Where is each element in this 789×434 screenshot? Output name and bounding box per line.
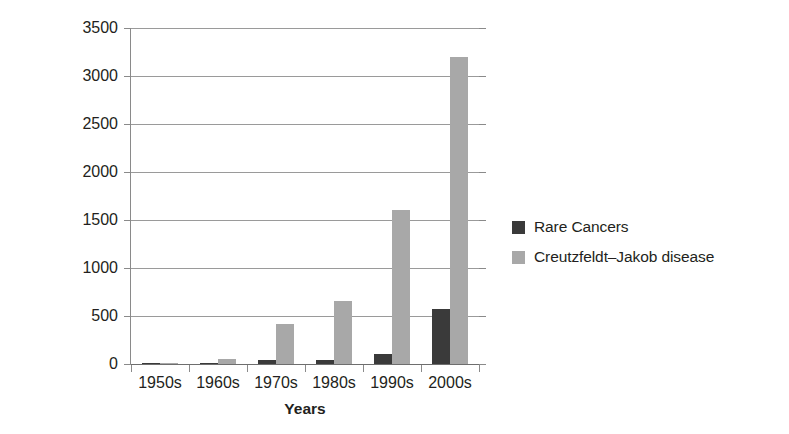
x-axis-tick	[305, 365, 306, 372]
y-axis-tick-label: 0	[48, 356, 118, 372]
y-axis-tick	[124, 124, 131, 125]
bar-group	[432, 28, 468, 364]
bar-cjd	[334, 301, 352, 364]
y-axis-tick	[124, 28, 131, 29]
y-axis-tick-label: 2000	[48, 164, 118, 180]
y-axis-tick	[124, 316, 131, 317]
bar-group	[142, 28, 178, 364]
bar-rare-cancers	[432, 309, 450, 364]
x-axis-tick	[189, 365, 190, 372]
bar-rare-cancers	[374, 354, 392, 364]
x-axis-tick	[479, 365, 480, 372]
x-axis-tick-label: 1970s	[247, 374, 305, 392]
legend-item: Rare Cancers	[512, 212, 787, 242]
bar-cjd	[450, 57, 468, 364]
bar-cjd	[276, 324, 294, 364]
chart-legend: Rare CancersCreutzfeldt–Jakob disease	[512, 212, 787, 272]
y-axis-tick-label: 3000	[48, 68, 118, 84]
y-axis-tick-right	[479, 124, 486, 125]
legend-item: Creutzfeldt–Jakob disease	[512, 242, 787, 272]
y-axis-tick-labels: 0500100015002000250030003500	[48, 0, 118, 434]
y-axis-title: Number of Publications	[0, 0, 48, 434]
bar-group	[258, 28, 294, 364]
y-axis-tick	[124, 220, 131, 221]
x-axis-tick	[247, 365, 248, 372]
bar-group	[374, 28, 410, 364]
y-axis-tick-label: 2500	[48, 116, 118, 132]
legend-label: Creutzfeldt–Jakob disease	[534, 248, 714, 266]
x-axis-tick-label: 2000s	[421, 374, 479, 392]
y-axis-tick-right	[479, 172, 486, 173]
x-axis-tick	[363, 365, 364, 372]
legend-swatch-icon	[512, 251, 525, 264]
y-axis-tick-right	[479, 316, 486, 317]
x-axis-tick-label: 1980s	[305, 374, 363, 392]
x-axis-tick-labels: 1950s1960s1970s1980s1990s2000s	[131, 374, 479, 396]
y-axis-tick-label: 1500	[48, 212, 118, 228]
y-axis-tick	[124, 172, 131, 173]
x-axis-tick	[421, 365, 422, 372]
bar-chart-figure: Number of Publications 05001000150020002…	[0, 0, 789, 434]
y-axis-tick	[124, 364, 131, 365]
bar-cjd	[392, 210, 410, 364]
bar-groups	[131, 28, 479, 364]
bar-group	[316, 28, 352, 364]
y-axis-tick	[124, 76, 131, 77]
y-axis-tick-right	[479, 364, 486, 365]
y-axis-tick-label: 500	[48, 308, 118, 324]
y-axis-tick-label: 1000	[48, 260, 118, 276]
x-axis-title: Years	[131, 400, 479, 418]
legend-swatch-icon	[512, 221, 525, 234]
x-axis-tick	[131, 365, 132, 372]
y-axis-tick	[124, 268, 131, 269]
y-axis-tick-right	[479, 28, 486, 29]
x-axis-tick-label: 1990s	[363, 374, 421, 392]
x-axis-tick-label: 1960s	[189, 374, 247, 392]
y-axis-tick-right	[479, 268, 486, 269]
legend-label: Rare Cancers	[534, 218, 628, 236]
y-axis-tick-right	[479, 76, 486, 77]
bar-group	[200, 28, 236, 364]
y-axis-tick-label: 3500	[48, 20, 118, 36]
x-axis-tick-label: 1950s	[131, 374, 189, 392]
y-axis-tick-right	[479, 220, 486, 221]
